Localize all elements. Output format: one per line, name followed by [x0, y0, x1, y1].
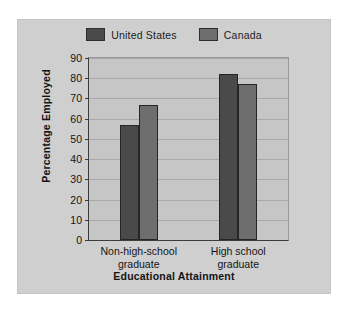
- legend-entry-canada[interactable]: Canada: [199, 28, 262, 41]
- bar[interactable]: [139, 105, 158, 240]
- chart-legend: United States Canada: [18, 28, 330, 41]
- y-axis-tick: [85, 179, 89, 180]
- y-axis-tick-label: 90: [70, 52, 82, 64]
- y-axis-title: Percentage Employed: [40, 51, 52, 201]
- x-axis-title: Educational Attainment: [18, 270, 330, 282]
- y-axis-tick: [85, 200, 89, 201]
- y-axis-tick-label: 10: [70, 214, 82, 226]
- chart-figure: United States Canada Percentage Employed…: [18, 20, 330, 293]
- plot-area: 9080706050403020100Non-high-schoolgradua…: [88, 57, 289, 241]
- y-axis-tick: [85, 119, 89, 120]
- legend-entry-united-states[interactable]: United States: [86, 28, 177, 41]
- legend-label-canada: Canada: [224, 29, 262, 41]
- y-axis-tick-label: 40: [70, 153, 82, 165]
- gridline: [89, 119, 288, 120]
- x-axis-category-label: Non-high-schoolgraduate: [101, 245, 177, 271]
- y-axis-tick-label: 30: [70, 173, 82, 185]
- y-axis-tick: [85, 139, 89, 140]
- y-axis-tick-label: 0: [76, 234, 82, 246]
- bar[interactable]: [120, 125, 139, 240]
- y-axis-tick: [85, 98, 89, 99]
- y-axis-tick: [85, 240, 89, 241]
- x-axis-category-label: High schoolgraduate: [211, 245, 266, 271]
- y-axis-tick: [85, 78, 89, 79]
- y-axis-tick: [85, 58, 89, 59]
- legend-swatch-canada: [199, 28, 218, 41]
- legend-swatch-united-states: [86, 28, 105, 41]
- bar[interactable]: [238, 84, 257, 240]
- legend-label-united-states: United States: [111, 29, 177, 41]
- bar[interactable]: [219, 74, 238, 240]
- y-axis-tick-label: 50: [70, 133, 82, 145]
- gridline: [89, 78, 288, 79]
- y-axis-tick-label: 60: [70, 113, 82, 125]
- y-axis-tick-label: 70: [70, 92, 82, 104]
- gridline: [89, 98, 288, 99]
- y-axis-tick: [85, 220, 89, 221]
- gridline: [89, 58, 288, 59]
- y-axis-tick: [85, 159, 89, 160]
- y-axis-tick-label: 80: [70, 72, 82, 84]
- y-axis-tick-label: 20: [70, 194, 82, 206]
